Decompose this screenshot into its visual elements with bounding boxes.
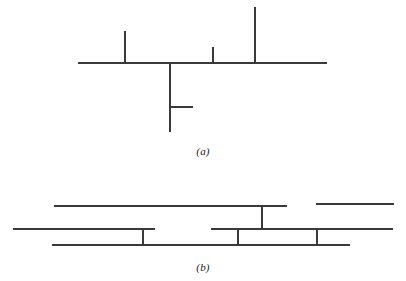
figure-root: (a) (b) xyxy=(0,0,406,281)
panel-b-lines xyxy=(13,204,394,245)
diagram-line-layer xyxy=(0,0,406,281)
panel-a-lines xyxy=(78,7,327,132)
panel-b-caption: (b) xyxy=(196,261,209,273)
panel-a-caption: (a) xyxy=(196,145,209,157)
